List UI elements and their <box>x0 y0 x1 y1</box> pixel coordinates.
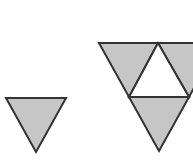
stage-1-triangle <box>99 43 193 151</box>
bottom-subtriangle <box>129 97 189 151</box>
sierpinski-diagram <box>0 0 193 161</box>
stage-0-triangle <box>6 98 66 152</box>
